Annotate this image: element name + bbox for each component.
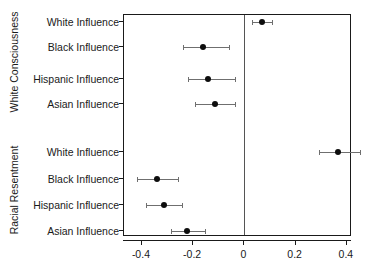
- estimate-row: [124, 152, 350, 153]
- x-axis-tick-label: -0.4: [132, 248, 150, 260]
- y-axis-label-hispanic-influence: Hispanic Influence: [33, 73, 119, 85]
- ci-lower-cap: [195, 102, 196, 107]
- point-estimate-dot: [200, 44, 206, 50]
- point-estimate-dot: [205, 76, 211, 82]
- estimate-row: [124, 79, 350, 80]
- ci-lower-cap: [171, 229, 172, 234]
- ci-lower-cap: [146, 203, 147, 208]
- y-axis-label-asian-influence: Asian Influence: [47, 225, 119, 237]
- ci-upper-cap: [272, 20, 273, 25]
- point-estimate-dot: [259, 19, 265, 25]
- ci-lower-cap: [188, 77, 189, 82]
- x-axis-tick: [295, 240, 296, 245]
- x-axis: -0.4-0.200.20.4: [123, 240, 351, 241]
- ci-upper-cap: [229, 45, 230, 50]
- estimate-row: [124, 104, 350, 105]
- confidence-interval-bar: [188, 79, 235, 80]
- x-axis-tick: [141, 240, 142, 245]
- ci-upper-cap: [205, 229, 206, 234]
- ci-lower-cap: [183, 45, 184, 50]
- point-estimate-dot: [184, 228, 190, 234]
- y-axis-label-black-influence: Black Influence: [48, 41, 119, 53]
- ci-lower-cap: [137, 177, 138, 182]
- x-axis-tick-label: 0.2: [287, 248, 302, 260]
- x-axis-tick-label: 0: [240, 248, 246, 260]
- point-estimate-dot: [335, 149, 341, 155]
- point-estimate-dot: [161, 202, 167, 208]
- plot-area: [123, 14, 351, 236]
- x-axis-tick: [192, 240, 193, 245]
- y-axis-labels: White InfluenceBlack InfluenceHispanic I…: [0, 14, 119, 236]
- x-axis-tick: [243, 240, 244, 245]
- coefficient-plot: White ConsciousnessRacial Resentment Whi…: [0, 0, 367, 274]
- x-axis-line: [123, 240, 351, 241]
- y-axis-label-asian-influence: Asian Influence: [47, 98, 119, 110]
- ci-upper-cap: [360, 150, 361, 155]
- x-axis-tick-label: 0.4: [339, 248, 354, 260]
- ci-lower-cap: [252, 20, 253, 25]
- zero-reference-line: [244, 15, 245, 235]
- ci-upper-cap: [235, 102, 236, 107]
- ci-upper-cap: [182, 203, 183, 208]
- x-axis-tick-label: -0.2: [183, 248, 201, 260]
- y-axis-label-hispanic-influence: Hispanic Influence: [33, 199, 119, 211]
- y-axis-label-white-influence: White Influence: [47, 16, 119, 28]
- ci-upper-cap: [235, 77, 236, 82]
- ci-upper-cap: [178, 177, 179, 182]
- estimate-row: [124, 22, 350, 23]
- point-estimate-dot: [212, 101, 218, 107]
- x-axis-tick: [346, 240, 347, 245]
- estimate-row: [124, 205, 350, 206]
- y-axis-label-black-influence: Black Influence: [48, 173, 119, 185]
- point-estimate-dot: [154, 176, 160, 182]
- ci-lower-cap: [319, 150, 320, 155]
- estimate-row: [124, 47, 350, 48]
- estimate-row: [124, 179, 350, 180]
- y-axis-label-white-influence: White Influence: [47, 146, 119, 158]
- estimate-row: [124, 231, 350, 232]
